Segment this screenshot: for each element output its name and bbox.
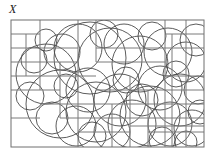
circle-29 bbox=[78, 122, 106, 150]
circle-13 bbox=[180, 24, 212, 56]
circle-21 bbox=[56, 106, 96, 146]
figure-container: X bbox=[0, 0, 214, 160]
circle-1 bbox=[44, 34, 80, 70]
geometry-canvas bbox=[0, 0, 214, 160]
circle-4 bbox=[78, 28, 142, 92]
circle-35 bbox=[149, 127, 175, 153]
circles-layer bbox=[16, 20, 212, 153]
